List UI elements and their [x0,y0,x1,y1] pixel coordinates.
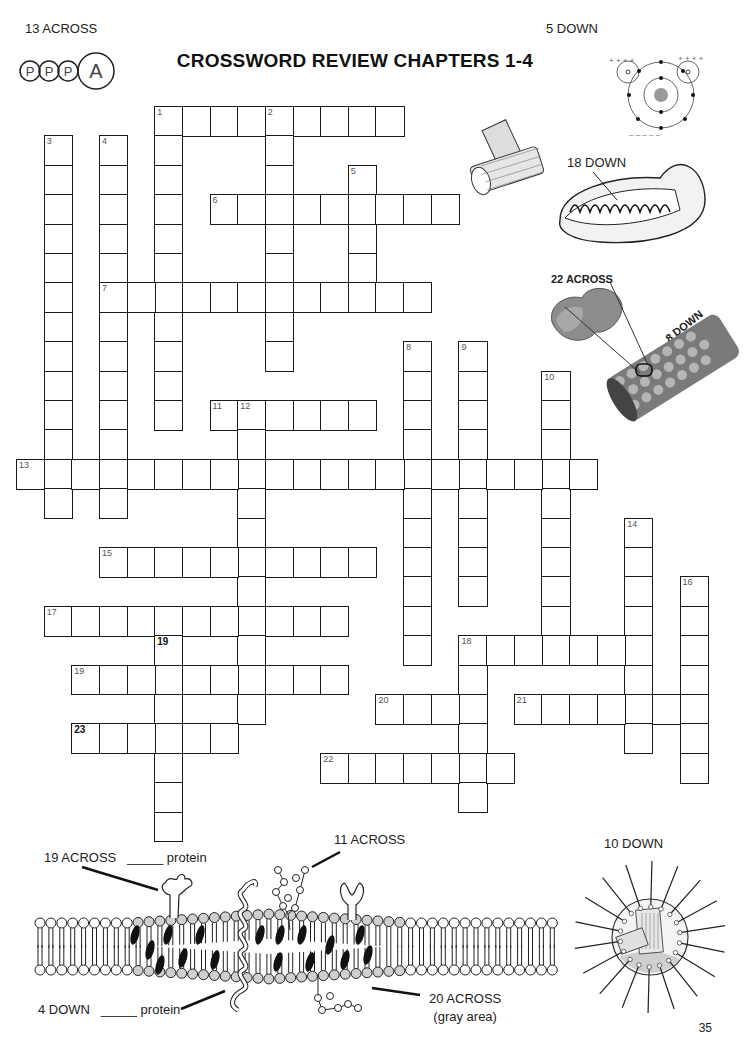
sugar-icon [355,1005,362,1012]
phospholipid-head [253,910,263,920]
phospholipid-head [57,918,67,928]
spindle-fiber [626,865,641,909]
phospholipid-head [471,965,481,975]
phospholipid-head [166,968,176,978]
phospholipid-head [286,973,296,983]
phospholipid-head [79,965,89,975]
centrosome-diagram [555,855,735,1025]
phospholipid-head [308,971,318,981]
phospholipid-head [177,968,187,978]
phospholipid-head [427,918,437,928]
phospholipid-head [362,915,372,925]
spindle-fiber [661,866,678,909]
phospholipid-head [46,965,56,975]
phospholipid-head [57,965,67,975]
phospholipid-head [449,918,459,928]
cholesterol-icon [254,924,267,945]
sugar-icon [315,995,322,1002]
phospholipid-head [297,911,307,921]
phospholipid-head [373,916,383,926]
page-number: 35 [699,1021,712,1035]
cholesterol-icon [274,924,287,945]
phospholipid-head [318,912,328,922]
phospholipid-head [515,965,525,975]
sugar-icon [297,887,304,894]
phospholipid-head [449,965,459,975]
phospholipid-head [188,914,198,924]
phospholipid-head [504,965,514,975]
phospholipid-head [264,909,274,919]
phospholipid-head [90,918,100,928]
sugar-icon [275,867,282,874]
phospholipid-head [318,971,328,981]
sugar-icon [280,903,287,910]
sugar-icon [293,875,300,882]
spindle-fiber [585,897,624,921]
phospholipid-head [111,918,121,928]
phospholipid-head [264,974,274,984]
spindle-fiber [670,880,700,914]
phospholipid-head [100,918,110,928]
sugar-icon [281,879,288,886]
phospholipid-head [209,913,219,923]
phospholipid-head [384,966,394,976]
phospholipid-head [209,970,219,980]
phospholipid-head [362,968,372,978]
pointer-line [82,867,158,890]
spindle-fiber [676,901,716,923]
cholesterol-icon [144,939,157,960]
phospholipid-head [536,965,546,975]
spindle-fiber [622,965,639,1008]
phospholipid-head [395,917,405,927]
sugar-icon [335,1005,342,1012]
phospholipid-head [438,918,448,928]
sugar-icon [273,889,280,896]
cholesterol-icon [177,947,190,968]
phospholipid-head [427,965,437,975]
sugar-icon [292,905,299,912]
phospholipid-head [471,918,481,928]
phospholipid-head [482,918,492,928]
spindle-fiber [669,960,698,996]
pointer-line [372,988,420,995]
cholesterol-icon [362,944,375,965]
pointer-line [181,991,225,1009]
phospholipid-head [384,917,394,927]
phospholipid-head [340,969,350,979]
phospholipid-head [308,912,318,922]
phospholipid-head [35,965,45,975]
phospholipid-head [526,965,536,975]
phospholipid-head [220,912,230,922]
spindle-fiber [600,959,630,993]
phospholipid-head [406,965,416,975]
phospholipid-head [35,918,45,928]
phospholipid-head [68,965,78,975]
label-centrosome: 10 DOWN [604,836,663,851]
phospholipid-head [111,965,121,975]
phospholipid-head [122,965,132,975]
spindle-fiber [676,953,715,977]
phospholipid-head [188,969,198,979]
phospholipid-head [493,965,503,975]
phospholipid-head [504,918,514,928]
phospholipid-head [329,970,339,980]
phospholipid-head [199,913,209,923]
phospholipid-head [275,973,285,983]
spindle-fiber [660,965,675,1009]
phospholipid-head [275,910,285,920]
phospholipid-head [122,918,132,928]
phospholipid-head [460,918,470,928]
phospholipid-head [536,918,546,928]
receptor-protein-icon [162,875,192,919]
phospholipid-head [144,966,154,976]
phospholipid-head [395,966,405,976]
phospholipid-head [155,916,165,926]
phospholipid-head [329,913,339,923]
sugar-icon [327,993,334,1000]
phospholipid-head [133,966,143,976]
cholesterol-icon [296,924,309,945]
spindle-fiber [583,951,623,973]
phospholipid-head [100,965,110,975]
sugar-icon [302,867,309,874]
phospholipid-head [68,918,78,928]
